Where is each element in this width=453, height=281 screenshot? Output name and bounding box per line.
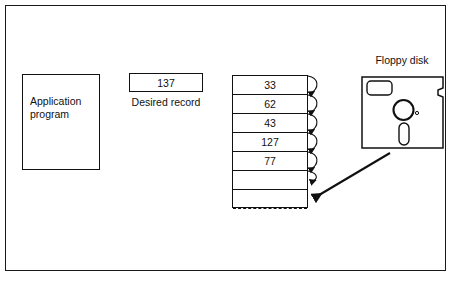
table-row: 43 — [233, 114, 307, 133]
table-row — [233, 171, 307, 190]
buffer-table: 33 62 43 127 77 — [232, 75, 308, 208]
table-cell-value: 127 — [261, 136, 279, 148]
table-row: 77 — [233, 152, 307, 171]
desired-record-box: 137 — [129, 73, 203, 92]
desired-record-caption: Desired record — [129, 96, 203, 108]
table-row — [233, 209, 307, 228]
table-row: 33 — [233, 76, 307, 95]
application-program-label-line2: program — [30, 108, 94, 121]
application-program-box — [22, 74, 100, 170]
table-row: 127 — [233, 133, 307, 152]
table-cell-value: 77 — [264, 155, 276, 167]
table-cell-value: 33 — [264, 79, 276, 91]
application-program-label-line1: Application — [30, 95, 94, 108]
floppy-disk-label: Floppy disk — [356, 54, 448, 66]
desired-record-value: 137 — [157, 77, 175, 89]
table-cell-value: 43 — [264, 117, 276, 129]
table-row: 62 — [233, 95, 307, 114]
table-row-dashed-separator — [233, 190, 307, 209]
application-program-label: Application program — [30, 95, 94, 121]
table-cell-value: 62 — [264, 98, 276, 110]
figure-canvas: Application program 137 Desired record 3… — [0, 0, 453, 281]
